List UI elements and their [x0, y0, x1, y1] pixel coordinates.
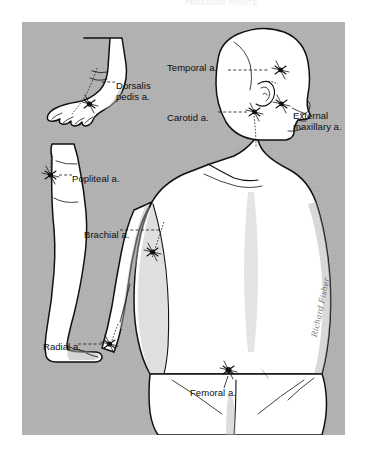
figure-artwork: .skin{fill:#ffffff;stroke:#111111;stroke… [22, 22, 345, 435]
label-temporal: Temporal a. [167, 62, 217, 73]
label-dorsalis-pedis: Dorsalis pedis a. [116, 80, 151, 102]
scan-top-cut-text: PRESSURE POINTS [185, 0, 360, 7]
label-carotid: Carotid a. [167, 112, 209, 123]
anatomical-figure: PRESSURE POINTS .skin{fill:#ffffff;strok… [0, 0, 368, 449]
label-femoral: Femoral a. [190, 387, 236, 398]
foot-illustration [47, 38, 126, 126]
label-radial: Radial a. [43, 341, 81, 352]
label-external-maxillary: External maxillary a. [293, 110, 342, 132]
label-popliteal: Popliteal a. [72, 173, 120, 184]
label-brachial: Brachial a. [84, 229, 129, 240]
